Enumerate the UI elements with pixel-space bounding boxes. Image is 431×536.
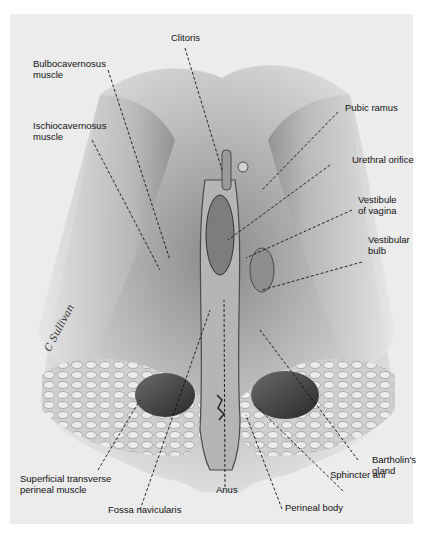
- label-perineal-body: Perineal body: [285, 502, 343, 513]
- label-ischiocavernosus-muscle: Ischiocavernosus muscle: [33, 120, 106, 142]
- label-vestibular-bulb: Vestibular bulb: [368, 234, 410, 256]
- label-vestibule-of-vagina: Vestibule of vagina: [358, 194, 397, 216]
- left-sphincter-muscle: [135, 373, 195, 417]
- label-urethral-orifice: Urethral orifice: [352, 154, 414, 165]
- label-anus: Anus: [216, 484, 238, 495]
- label-bulbocavernosus-muscle: Bulbocavernosus muscle: [33, 58, 106, 80]
- perineum-illustration: [0, 0, 431, 536]
- label-pubic-ramus: Pubic ramus: [345, 102, 398, 113]
- label-fossa-navicularis: Fossa navicularis: [108, 504, 181, 515]
- label-clitoris: Clitoris: [171, 32, 200, 43]
- clitoris-shape: [222, 150, 231, 190]
- vestibule-shape: [206, 195, 234, 275]
- vestibular-bulb-shape: [250, 248, 274, 292]
- label-superficial-transverse-perineal-muscle: Superficial transverse perineal muscle: [20, 473, 111, 495]
- label-sphincter-ani: Sphincter ani: [330, 469, 385, 480]
